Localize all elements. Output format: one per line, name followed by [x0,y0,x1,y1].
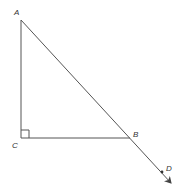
label-d: D [166,164,172,173]
ray-abd [21,20,171,183]
right-angle-marker [21,130,29,138]
label-c: C [12,141,18,150]
label-b: B [133,130,139,139]
triangle-diagram: A C B D [0,0,181,195]
label-a: A [13,8,19,17]
point-d-dot [161,171,164,174]
